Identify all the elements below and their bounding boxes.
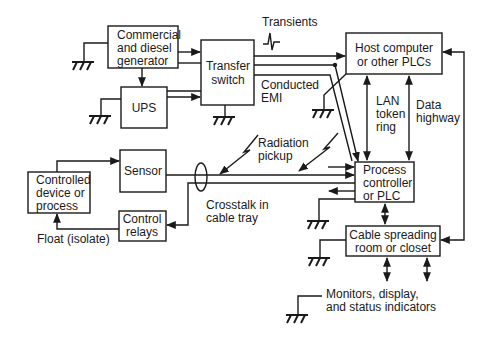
ground-icon-ups [89,99,121,124]
process-controller-box: Process controller or PLC [355,162,414,203]
transient-waveform-icon [263,33,280,50]
crosstalk-label-2: cable tray [206,211,258,225]
float-label: Float (isolate) [37,232,110,246]
cable-spreading-label-1: Cable spreading [349,228,436,242]
device-to-sensor-arrow [57,161,119,172]
transients-label: Transients [262,15,318,29]
controlled-device-box: Controlled device or process [28,172,91,213]
transfer-switch-label-1: Transfer [206,59,250,73]
radiation-bolt-1-icon [220,135,258,174]
control-relays-box: Control relays [119,211,166,241]
sensor-box: Sensor [120,150,166,192]
radiation-label-2: pickup [258,149,293,163]
lan-label-3: ring [376,120,396,134]
lan-label-2: token [376,107,405,121]
generator-label-1: Commercial [117,28,181,42]
conducted-emi-label-1: Conducted [261,78,319,92]
conducted-emi-label-2: EMI [261,91,282,105]
ups-box: UPS [121,87,167,128]
process-controller-label-3: or PLC [363,189,401,203]
controlled-device-label-3: process [36,199,78,213]
radiation-label-1: Radiation [258,136,309,150]
generator-label-2: and diesel [117,41,172,55]
host-computer-box: Host computer or other PLCs [346,33,442,74]
control-relays-label-1: Control [123,212,162,226]
data-highway-label-2: highway [416,111,460,125]
monitors-label-1: Monitors, display, [326,287,418,301]
generator-box: Commercial and diesel generator [108,26,181,68]
sensor-label: Sensor [124,164,162,178]
process-controller-label-2: controller [363,176,412,190]
relays-to-device-arrow [57,214,119,229]
cable-tray-ellipse [195,163,207,191]
control-relays-label-2: relays [126,225,158,239]
cable-to-host-loop [441,52,464,240]
controlled-device-label-1: Controlled [36,173,91,187]
cable-spreading-label-2: room or closet [355,241,432,255]
ground-icon-plc [307,199,355,229]
controlled-device-label-2: device or [36,186,85,200]
cable-spreading-box: Cable spreading room or closet [346,226,440,256]
host-computer-label-2: or other PLCs [357,55,431,69]
ground-icon-cable-spreading [308,240,346,266]
process-controller-label-1: Process [363,163,406,177]
emi-sources-diagram: Commercial and diesel generator UPS Tran… [0,0,489,347]
ground-icon-transfer-switch [213,105,235,125]
monitors-label-2: and status indicators [326,300,436,314]
diagram-svg: Commercial and diesel generator UPS Tran… [0,0,489,347]
host-computer-label-1: Host computer [355,41,433,55]
ground-icon-monitors [286,296,322,323]
transfer-switch-box: Transfer switch [201,40,254,105]
crosstalk-label-1: Crosstalk in [206,198,269,212]
junction-dot [333,63,337,67]
ground-icon-generator [72,43,108,70]
data-highway-label-1: Data [416,98,442,112]
to-relays-arrow [167,183,196,225]
lan-label-1: LAN [376,94,399,108]
transfer-switch-label-2: switch [211,73,244,87]
generator-label-3: generator [117,54,168,68]
ups-label: UPS [132,101,157,115]
